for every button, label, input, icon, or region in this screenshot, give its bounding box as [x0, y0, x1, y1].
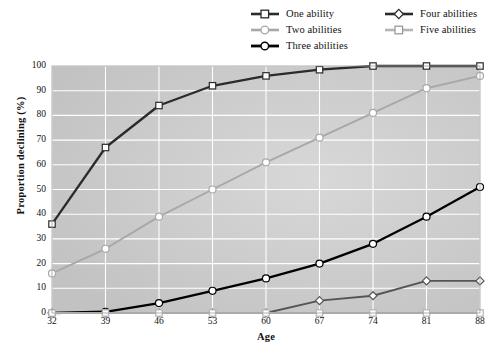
legend-swatch-circle-icon — [250, 24, 280, 36]
legend-label-one-ability: One ability — [286, 9, 334, 20]
x-axis-tick-labels: 323946536067748188 — [0, 316, 493, 332]
x-axis-tick-label: 46 — [144, 316, 174, 326]
x-axis-tick-label: 53 — [198, 316, 228, 326]
y-axis-tick-label: 30 — [20, 233, 46, 243]
data-point-marker — [423, 85, 430, 92]
x-axis-tick-label: 32 — [37, 316, 67, 326]
legend-item-three-abilities[interactable]: Three abilities — [250, 40, 348, 52]
data-point-marker — [316, 260, 323, 267]
data-point-marker — [155, 213, 162, 220]
data-point-marker — [369, 109, 376, 116]
data-point-marker — [102, 245, 109, 252]
legend-item-four-abilities[interactable]: Four abilities — [384, 8, 477, 20]
legend-swatch-square-light-icon — [384, 24, 414, 36]
x-axis-tick-label: 88 — [465, 316, 493, 326]
legend-label-two-abilities: Two abilities — [286, 25, 342, 36]
legend-item-one-ability[interactable]: One ability — [250, 8, 334, 20]
data-point-marker — [209, 83, 215, 89]
data-point-marker — [102, 144, 108, 150]
data-point-marker — [155, 300, 162, 307]
y-axis-tick-label: 20 — [20, 258, 46, 268]
data-point-marker — [316, 67, 322, 73]
data-point-marker — [423, 213, 430, 220]
x-axis-tick-label: 74 — [358, 316, 388, 326]
x-axis-tick-label: 81 — [412, 316, 442, 326]
data-point-marker — [316, 134, 323, 141]
y-axis-title: Proportion declining (%) — [15, 86, 26, 226]
x-axis-title: Age — [52, 331, 480, 342]
chart-figure: One ability Two abilities Three abilitie… — [0, 0, 493, 353]
data-point-marker — [156, 102, 162, 108]
data-point-marker — [262, 159, 269, 166]
legend-item-two-abilities[interactable]: Two abilities — [250, 24, 342, 36]
data-point-marker — [262, 275, 269, 282]
y-axis-tick-label: 10 — [20, 282, 46, 292]
data-point-marker — [263, 73, 269, 79]
legend-label-three-abilities: Three abilities — [286, 41, 348, 52]
legend-label-five-abilities: Five abilities — [420, 25, 476, 36]
legend-item-five-abilities[interactable]: Five abilities — [384, 24, 476, 36]
data-point-marker — [209, 186, 216, 193]
legend-label-four-abilities: Four abilities — [420, 9, 477, 20]
x-axis-tick-label: 67 — [305, 316, 335, 326]
legend-swatch-circle-dark-icon — [250, 40, 280, 52]
data-point-marker — [209, 287, 216, 294]
x-axis-tick-label: 39 — [91, 316, 121, 326]
x-axis-tick-label: 60 — [251, 316, 281, 326]
legend-swatch-diamond-icon — [384, 8, 414, 20]
legend-swatch-square-icon — [250, 8, 280, 20]
chart-legend: One ability Two abilities Three abilitie… — [236, 7, 488, 55]
data-point-marker — [369, 240, 376, 247]
y-axis-tick-label: 100 — [20, 60, 46, 70]
